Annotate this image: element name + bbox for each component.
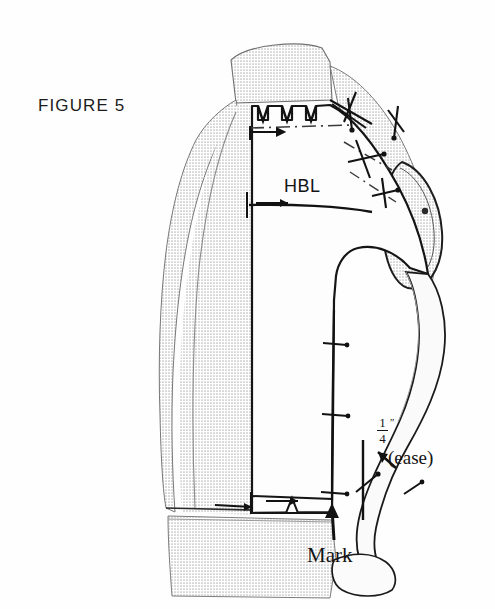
armhole-pin xyxy=(404,480,424,494)
pivot-dot xyxy=(422,208,428,214)
figure-root: FIGURE 5 HBL Mark 1 4 ″ (ease) xyxy=(0,0,495,609)
draping-illustration xyxy=(0,0,495,609)
inch-symbol: ″ xyxy=(390,417,395,428)
mark-label: Mark xyxy=(307,543,353,568)
ease-fraction: 1 4 xyxy=(377,416,388,445)
ease-denominator: 4 xyxy=(377,432,388,445)
ease-numerator: 1 xyxy=(377,416,388,429)
ease-measurement: 1 4 ″ xyxy=(377,416,395,445)
hbl-label: HBL xyxy=(284,176,321,197)
ease-note-label: (ease) xyxy=(388,447,433,469)
figure-title: FIGURE 5 xyxy=(38,96,125,116)
neckline-clip-notches xyxy=(258,106,316,121)
